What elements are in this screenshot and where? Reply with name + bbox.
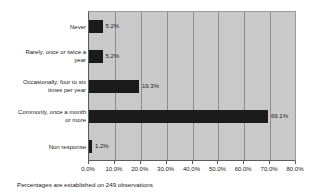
tick-mark — [243, 161, 244, 164]
bar-value-label: 1.2% — [95, 141, 109, 152]
tick-mark — [166, 161, 167, 164]
bar-rarely[interactable] — [89, 50, 103, 63]
category-label-rarely: Rarely, once or twice a year — [0, 48, 86, 64]
bar-occasionally[interactable] — [89, 80, 139, 93]
tick-mark — [269, 161, 270, 164]
bar-commonly[interactable] — [89, 110, 268, 123]
category-label-line: Occasionally, four to six — [0, 78, 86, 86]
tick-mark — [295, 161, 296, 164]
category-label-line: Commonly, once a month — [0, 108, 86, 116]
tick-mark — [88, 161, 89, 164]
gridline-60 — [244, 12, 245, 160]
category-label-line: Never — [0, 23, 86, 31]
category-label-commonly: Commonly, once a month or more — [0, 108, 86, 124]
category-label-line: or more — [0, 116, 86, 124]
tick-mark — [192, 161, 193, 164]
bar-value-label: 5.2% — [106, 21, 120, 32]
gridline-30 — [167, 12, 168, 160]
category-label-line: Non response — [0, 143, 86, 151]
bar-value-label: 5.2% — [106, 51, 120, 62]
category-label-line: Rarely, once or twice a — [0, 48, 86, 56]
tick-mark — [217, 161, 218, 164]
category-label-never: Never — [0, 23, 86, 31]
gridline-40 — [193, 12, 194, 160]
category-label-line: times per year — [0, 86, 86, 94]
bar-value-label: 69.1% — [271, 111, 288, 122]
xtick-label: 80.0% — [280, 165, 310, 173]
bar-chart-figure: 5.2% 5.2% 19.3% 69.1% 1.2% Never Rarely,… — [0, 0, 311, 194]
category-label-occasionally: Occasionally, four to six times per year — [0, 78, 86, 94]
bar-never[interactable] — [89, 20, 103, 33]
tick-mark — [140, 161, 141, 164]
gridline-70 — [270, 12, 271, 160]
category-label-line: year — [0, 56, 86, 64]
tick-mark — [114, 161, 115, 164]
gridline-50 — [218, 12, 219, 160]
chart-footnote: Percentages are established on 249 obser… — [17, 180, 153, 189]
category-label-non-response: Non response — [0, 143, 86, 151]
bar-non-response[interactable] — [89, 140, 92, 153]
plot-area: 5.2% 5.2% 19.3% 69.1% 1.2% — [88, 11, 296, 161]
bar-value-label: 19.3% — [142, 81, 159, 92]
